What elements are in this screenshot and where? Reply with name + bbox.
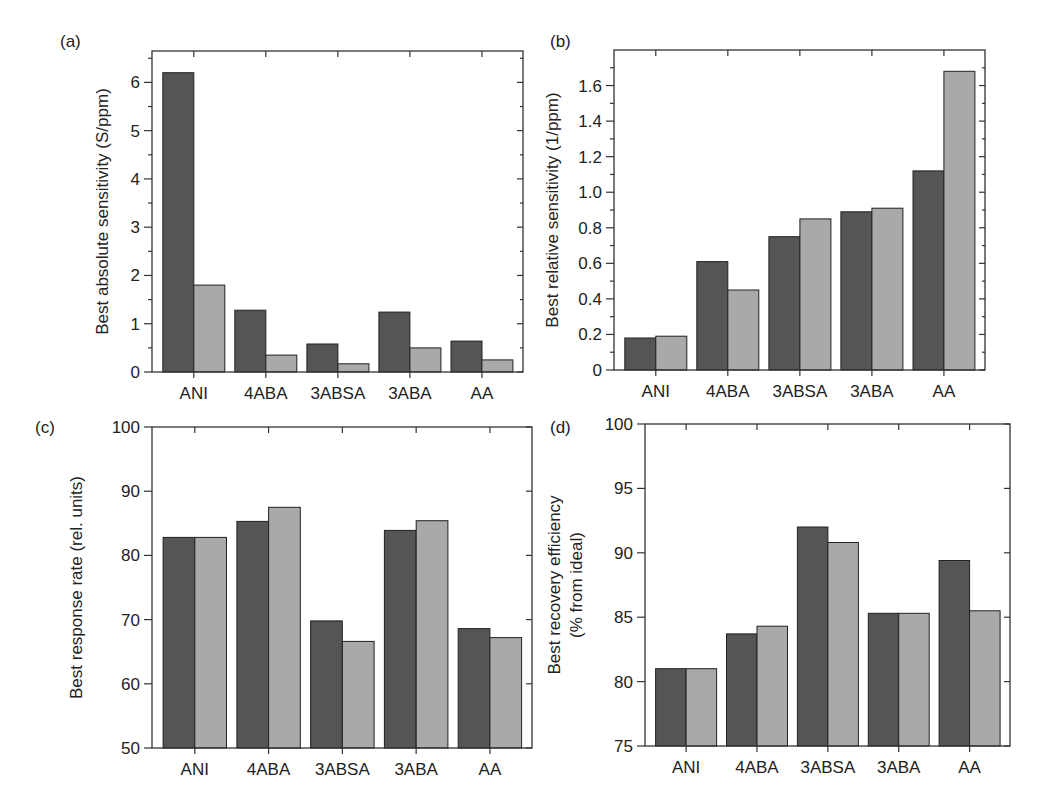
panel-label: (c) [35, 418, 55, 437]
y-tick-label: 80 [121, 546, 140, 565]
x-tick-label: 4ABA [247, 760, 291, 779]
x-tick-label: AA [479, 760, 502, 779]
y-axis-label: Best absolute sensitivity (S/ppm) [93, 88, 112, 335]
y-tick-label: 100 [605, 415, 633, 434]
bar-ani-light [195, 537, 227, 748]
bar-3aba-dark [868, 613, 899, 746]
y-tick-label: 70 [121, 611, 140, 630]
bar-ani-dark [656, 669, 687, 746]
y-axis-label-line2: (% from ideal) [567, 532, 586, 638]
panel-d: ANI4ABA3ABSA3ABAAA7580859095100Best reco… [545, 415, 1010, 777]
bar-4aba-dark [235, 310, 266, 372]
bar-4aba-dark [237, 521, 269, 748]
y-axis-label: Best relative sensitivity (1/ppm) [543, 92, 562, 327]
bar-4aba-light [269, 507, 301, 748]
bar-4aba-light [757, 626, 788, 746]
y-tick-label: 85 [614, 608, 633, 627]
x-tick-label: AA [471, 384, 494, 403]
y-tick-label: 100 [112, 418, 140, 437]
bar-3absa-light [800, 219, 831, 370]
y-tick-label: 0.6 [578, 254, 602, 273]
y-tick-label: 6 [131, 73, 140, 92]
y-tick-label: 50 [121, 739, 140, 758]
y-tick-label: 0.4 [578, 290, 602, 309]
panel-c: ANI4ABA3ABSA3ABAAA5060708090100Best resp… [35, 418, 532, 779]
y-axis-label: Best response rate (rel. units) [67, 476, 86, 699]
panel-label: (b) [550, 32, 571, 51]
x-tick-label: 3ABSA [772, 382, 827, 401]
bar-ani-light [686, 669, 717, 746]
x-tick-label: 3ABSA [800, 758, 855, 777]
x-tick-label: ANI [181, 760, 209, 779]
y-axis-label: Best recovery efficiency [545, 495, 564, 675]
bar-aa-light [482, 360, 513, 372]
x-tick-label: 3ABA [394, 760, 438, 779]
bar-ani-dark [163, 537, 195, 748]
y-tick-label: 0 [131, 363, 140, 382]
y-tick-label: 1 [131, 315, 140, 334]
figure-canvas: ANI4ABA3ABSA3ABAAA0123456Best absolute s… [0, 0, 1042, 808]
y-tick-label: 80 [614, 673, 633, 692]
y-tick-label: 5 [131, 122, 140, 141]
x-tick-label: ANI [642, 382, 670, 401]
bar-4aba-light [266, 355, 297, 372]
bar-3aba-light [899, 613, 930, 746]
panel-b: ANI4ABA3ABSA3ABAAA00.20.40.60.81.01.21.4… [543, 32, 985, 401]
x-tick-label: 4ABA [244, 384, 288, 403]
y-tick-label: 1.0 [578, 183, 602, 202]
x-tick-label: 4ABA [706, 382, 750, 401]
x-tick-label: 3ABSA [315, 760, 370, 779]
y-tick-label: 0.2 [578, 325, 602, 344]
y-tick-label: 1.4 [578, 112, 602, 131]
y-tick-label: 60 [121, 675, 140, 694]
bar-4aba-dark [727, 634, 758, 746]
bar-aa-light [970, 611, 1001, 746]
y-tick-label: 90 [121, 482, 140, 501]
y-tick-label: 75 [614, 737, 633, 756]
bar-aa-light [944, 71, 975, 370]
x-tick-label: 3ABA [877, 758, 921, 777]
y-tick-label: 4 [131, 170, 140, 189]
bar-aa-light [490, 638, 522, 748]
bar-aa-dark [458, 629, 490, 748]
y-tick-label: 90 [614, 544, 633, 563]
panel-label: (a) [60, 32, 81, 51]
bar-aa-dark [913, 171, 944, 370]
y-tick-label: 3 [131, 218, 140, 237]
x-tick-label: AA [933, 382, 956, 401]
bar-ani-light [194, 285, 225, 372]
x-tick-label: ANI [180, 384, 208, 403]
bar-3absa-dark [307, 344, 338, 372]
bar-ani-dark [625, 338, 656, 370]
bar-4aba-dark [697, 262, 728, 370]
x-tick-label: AA [958, 758, 981, 777]
bar-4aba-light [728, 290, 759, 370]
bar-3absa-dark [769, 237, 800, 370]
bar-3aba-light [872, 208, 903, 370]
bar-aa-dark [939, 561, 970, 747]
x-tick-label: 4ABA [735, 758, 779, 777]
y-tick-label: 0.8 [578, 219, 602, 238]
bar-3absa-dark [797, 527, 828, 746]
bar-3aba-dark [841, 212, 872, 370]
panel-label: (d) [550, 418, 571, 437]
bar-3absa-light [342, 641, 374, 748]
x-tick-label: 3ABA [850, 382, 894, 401]
x-tick-label: 3ABA [388, 384, 432, 403]
bar-3aba-light [410, 348, 441, 372]
x-tick-label: 3ABSA [310, 384, 365, 403]
bar-3aba-dark [384, 530, 416, 748]
bar-3absa-light [338, 364, 369, 372]
y-tick-label: 2 [131, 266, 140, 285]
y-tick-label: 95 [614, 479, 633, 498]
bar-3aba-light [416, 521, 448, 748]
bar-ani-light [656, 336, 687, 370]
x-tick-label: ANI [672, 758, 700, 777]
bar-3absa-dark [311, 621, 343, 748]
y-tick-label: 1.2 [578, 148, 602, 167]
bar-ani-dark [163, 73, 194, 372]
y-tick-label: 1.6 [578, 77, 602, 96]
bar-3absa-light [828, 543, 859, 747]
panel-a: ANI4ABA3ABSA3ABAAA0123456Best absolute s… [60, 32, 523, 403]
y-tick-label: 0 [593, 361, 602, 380]
